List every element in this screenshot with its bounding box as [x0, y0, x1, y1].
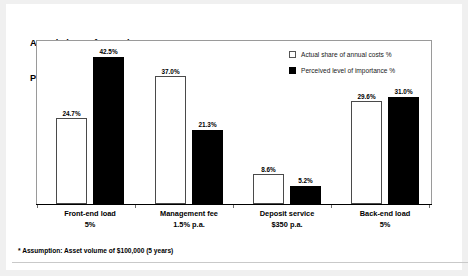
axis-tick-2 — [233, 205, 234, 208]
bar-value-label: 5.2% — [298, 177, 313, 184]
category-labels: Front-end load5%Management fee1.5% p.a.D… — [36, 209, 432, 237]
bar-g1-s1: 21.3% — [192, 130, 223, 204]
category-label-1: Management fee1.5% p.a. — [160, 209, 218, 230]
bar-g3-s0: 29.6% — [351, 101, 382, 204]
bar-value-label: 29.6% — [357, 93, 375, 100]
bar-value-label: 24.7% — [62, 110, 80, 117]
axis-tick-4 — [429, 205, 430, 208]
bar-value-label: 21.3% — [198, 121, 216, 128]
category-label-line-2: 5% — [64, 220, 116, 231]
footnote: * Assumption: Asset volume of $100,000 (… — [18, 247, 173, 254]
bar-value-label: 31.0% — [394, 88, 412, 95]
category-label-0: Front-end load5% — [64, 209, 116, 230]
legend-swatch-solid-icon — [289, 67, 296, 74]
legend-label-perceived-importance: Perceived level of importance % — [301, 67, 395, 74]
legend-label-actual-share: Actual share of annual costs % — [301, 51, 392, 58]
axis-tick-0 — [37, 205, 38, 208]
bar-value-label: 37.0% — [161, 68, 179, 75]
bar-value-label: 8.6% — [261, 166, 276, 173]
category-label-line-1: Back-end load — [360, 209, 411, 220]
footer-divider — [12, 262, 468, 263]
bar-value-label: 42.5% — [99, 48, 117, 55]
axis-tick-1 — [135, 205, 136, 208]
chart-legend: Actual share of annual costs % Perceived… — [289, 51, 395, 83]
category-label-line-2: 1.5% p.a. — [160, 220, 218, 231]
bar-g1-s0: 37.0% — [155, 76, 186, 204]
bar-g2-s1: 5.2% — [290, 186, 321, 204]
bar-g0-s1: 42.5% — [93, 57, 124, 204]
category-label-3: Back-end load5% — [360, 209, 411, 230]
category-label-line-1: Deposit service — [260, 209, 315, 220]
category-label-line-2: 5% — [360, 220, 411, 231]
legend-item-perceived-importance: Perceived level of importance % — [289, 67, 395, 74]
bar-g2-s0: 8.6% — [253, 174, 284, 204]
legend-swatch-open-icon — [289, 51, 296, 58]
bar-g3-s1: 31.0% — [388, 97, 419, 205]
legend-item-actual-share: Actual share of annual costs % — [289, 51, 395, 58]
axis-tick-3 — [331, 205, 332, 208]
chart-card: Actual share of annual costs % Perceived… — [6, 4, 462, 270]
category-label-2: Deposit service$350 p.a. — [260, 209, 315, 230]
category-label-line-1: Front-end load — [64, 209, 116, 220]
category-label-line-2: $350 p.a. — [260, 220, 315, 231]
bar-g0-s0: 24.7% — [56, 118, 87, 204]
category-label-line-1: Management fee — [160, 209, 218, 220]
